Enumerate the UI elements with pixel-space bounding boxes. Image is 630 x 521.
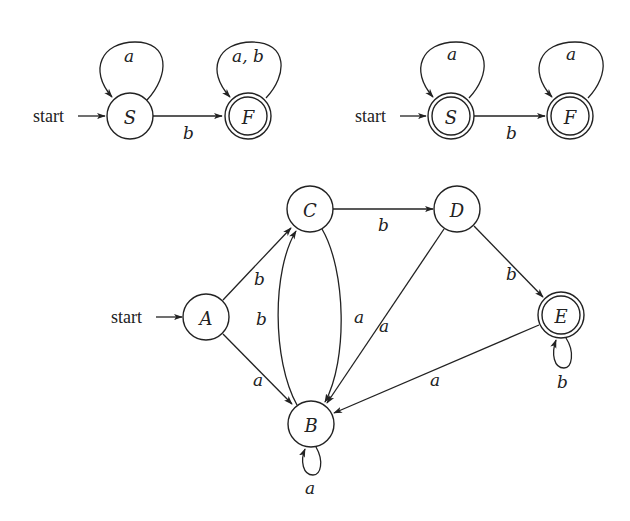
- edge-label-A-C: b: [254, 269, 265, 289]
- svg-text:A: A: [198, 308, 213, 329]
- svg-text:F: F: [563, 107, 578, 128]
- edge-label-S-F: b: [506, 123, 517, 143]
- edge-label-C-D: b: [378, 215, 389, 235]
- edge-B-C: [278, 231, 297, 405]
- edge-E-B: [334, 325, 539, 413]
- automata-figure: start a b a, b S F start a b a: [0, 0, 630, 521]
- edge-label-A-B: a: [253, 370, 263, 390]
- svg-text:B: B: [303, 415, 317, 436]
- dfa-1: start a b a, b S F: [33, 42, 281, 143]
- svg-text:E: E: [553, 306, 567, 327]
- edge-label-B-C: b: [256, 309, 267, 329]
- edge-A-B: [223, 334, 292, 404]
- state-A: A: [183, 294, 229, 340]
- edge-label-S-S: a: [447, 44, 457, 64]
- edge-label-F-F: a: [566, 44, 576, 64]
- state-D: D: [434, 186, 480, 232]
- start-label: start: [33, 106, 64, 126]
- edge-C-B: [322, 229, 341, 402]
- edge-label-S-F: b: [183, 123, 194, 143]
- svg-text:F: F: [241, 107, 256, 128]
- state-C: C: [287, 186, 333, 232]
- svg-text:C: C: [303, 200, 317, 221]
- edge-D-E: [474, 226, 543, 297]
- edge-label-E-B: a: [430, 370, 440, 390]
- edge-A-C: [223, 228, 291, 300]
- start-label: start: [355, 106, 386, 126]
- edge-label-D-E: b: [506, 264, 517, 284]
- state-F-accepting: F: [225, 93, 271, 139]
- edge-E-E: [554, 338, 572, 368]
- state-S-accepting: S: [428, 93, 474, 139]
- state-F-accepting: F: [547, 93, 593, 139]
- svg-text:S: S: [445, 107, 457, 128]
- edge-label-C-B: a: [354, 307, 364, 327]
- state-E-accepting: E: [538, 292, 584, 338]
- edge-B-B: [303, 447, 321, 475]
- start-label: start: [111, 307, 142, 327]
- svg-text:S: S: [124, 107, 136, 128]
- edge-label-D-B: a: [379, 316, 389, 336]
- edge-label-E-E: b: [557, 372, 568, 392]
- state-B: B: [288, 401, 334, 447]
- edge-label-B-B: a: [305, 478, 315, 498]
- svg-text:D: D: [449, 200, 465, 221]
- edge-label-S-S: a: [124, 46, 134, 66]
- dfa-3: start b a b a b a b a b a: [111, 186, 584, 498]
- dfa-2: start a b a S F: [355, 42, 603, 143]
- state-S: S: [107, 93, 153, 139]
- edge-label-F-F: a, b: [232, 46, 264, 66]
